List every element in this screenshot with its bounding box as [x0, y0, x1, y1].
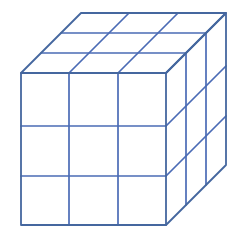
cube-figure [0, 0, 243, 241]
cube-diagram-svg [0, 0, 243, 241]
front-face-fill [21, 73, 166, 225]
